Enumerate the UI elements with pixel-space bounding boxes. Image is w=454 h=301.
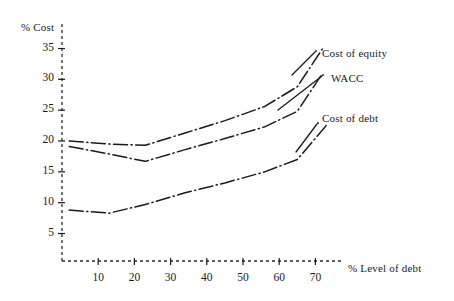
y-tick-label: 30 [28,71,54,83]
leader-dot [317,122,319,124]
x-tick-label: 30 [158,271,184,283]
y-tick-label: 10 [28,195,54,207]
series-label-wacc: WACC [331,72,364,84]
y-tick-label: 25 [28,102,54,114]
y-tick-label: 5 [28,226,54,238]
leader-line [278,76,322,110]
series-label-cost-of-debt: Cost of debt [322,112,378,124]
x-tick-label: 10 [85,271,111,283]
x-tick-label: 70 [302,271,328,283]
x-axis-title: % Level of debt [348,262,422,274]
leader-line [292,52,315,75]
x-tick-label: 40 [194,271,220,283]
y-axis-title: % Cost [21,21,54,33]
y-tick-label: 20 [28,133,54,145]
x-tick-label: 60 [266,271,292,283]
leader-dot [315,50,317,52]
series-line-cost-of-equity [69,49,322,146]
leader-dot [322,74,324,76]
series-label-cost-of-equity: Cost of equity [322,47,387,59]
data-series-group [69,49,326,214]
series-line-wacc [69,73,322,161]
x-tick-label: 20 [121,271,147,283]
x-tick-label: 50 [230,271,256,283]
chart-container: % Cost % Level of debt 3530252015105 102… [0,0,454,301]
series-line-cost-of-debt [69,126,326,214]
y-tick-label: 35 [28,41,54,53]
y-tick-label: 15 [28,164,54,176]
chart-plot-area [0,0,454,301]
